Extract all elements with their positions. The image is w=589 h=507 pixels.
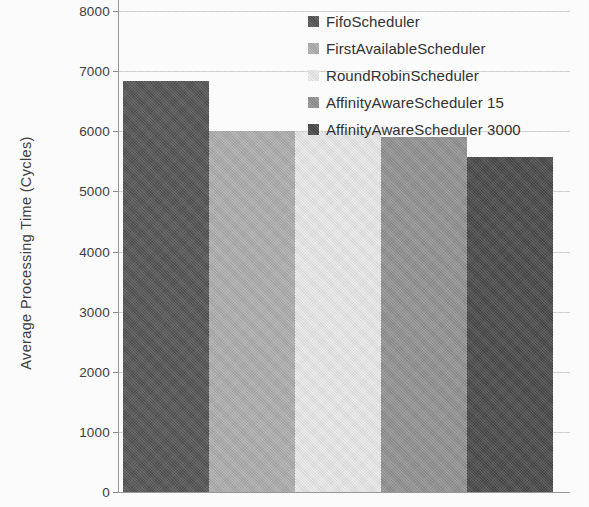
bar bbox=[209, 131, 295, 492]
legend-item: FirstAvailableScheduler bbox=[308, 35, 521, 62]
y-axis-tick-label: 7000 bbox=[36, 64, 110, 79]
bar bbox=[123, 81, 209, 492]
bar bbox=[295, 132, 381, 492]
legend-label: RoundRobinScheduler bbox=[326, 67, 479, 84]
legend-swatch-icon bbox=[308, 124, 319, 135]
y-axis-tick-label: 6000 bbox=[36, 124, 110, 139]
gridline bbox=[118, 492, 570, 493]
legend-item: AffinityAwareScheduler 3000 bbox=[308, 116, 521, 143]
y-axis-tick-label: 2000 bbox=[36, 364, 110, 379]
y-axis-tick-labels: 800070006000500040003000200010000 bbox=[36, 0, 110, 507]
legend-item: AffinityAwareScheduler 15 bbox=[308, 89, 521, 116]
y-axis-line bbox=[118, 0, 119, 492]
y-axis-tick-label: 5000 bbox=[36, 184, 110, 199]
bar bbox=[381, 137, 467, 492]
legend-label: AffinityAwareScheduler 3000 bbox=[326, 121, 521, 138]
legend-item: FifoScheduler bbox=[308, 8, 521, 35]
y-axis-tick-label: 4000 bbox=[36, 244, 110, 259]
y-axis-tick-label: 8000 bbox=[36, 4, 110, 19]
legend-label: FifoScheduler bbox=[326, 13, 420, 30]
legend: FifoSchedulerFirstAvailableSchedulerRoun… bbox=[308, 8, 521, 143]
y-axis-tick-label: 0 bbox=[36, 485, 110, 500]
legend-swatch-icon bbox=[308, 70, 319, 81]
y-axis-tick-label: 3000 bbox=[36, 304, 110, 319]
bar-chart-figure: Average Processing Time (Cycles) 8000700… bbox=[0, 0, 589, 507]
y-axis-tick-label: 1000 bbox=[36, 424, 110, 439]
tick-mark bbox=[113, 492, 118, 493]
y-axis-title: Average Processing Time (Cycles) bbox=[18, 88, 34, 418]
legend-item: RoundRobinScheduler bbox=[308, 62, 521, 89]
bar bbox=[467, 157, 553, 492]
legend-swatch-icon bbox=[308, 43, 319, 54]
legend-label: FirstAvailableScheduler bbox=[326, 40, 486, 57]
legend-swatch-icon bbox=[308, 97, 319, 108]
legend-label: AffinityAwareScheduler 15 bbox=[326, 94, 504, 111]
legend-swatch-icon bbox=[308, 16, 319, 27]
